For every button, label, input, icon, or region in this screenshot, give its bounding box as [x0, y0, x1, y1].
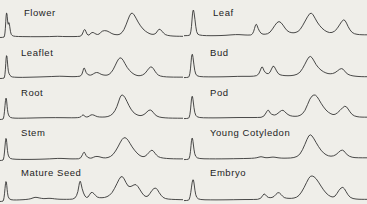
- trace-line: [0, 138, 183, 161]
- trace-line: [184, 176, 367, 201]
- trace-label: Embryo: [210, 168, 246, 178]
- trace-svg: [184, 0, 367, 40]
- trace-line: [184, 95, 367, 119]
- trace-line: [0, 55, 183, 78]
- trace-svg: [0, 0, 183, 40]
- trace-label: Young Cotyledon: [210, 128, 290, 138]
- trace-label: Root: [21, 88, 43, 98]
- trace-label: Pod: [210, 88, 229, 98]
- trace-label: Stem: [21, 128, 45, 138]
- trace-label: Leaf: [213, 8, 234, 18]
- trace-label: Mature Seed: [21, 168, 81, 178]
- trace-line: [0, 95, 183, 120]
- trace-panel: [184, 0, 367, 40]
- trace-line: [0, 176, 183, 201]
- trace-label: Leaflet: [21, 48, 53, 58]
- trace-line: [184, 10, 367, 36]
- trace-panel: [0, 0, 183, 40]
- chromatogram-figure: FlowerLeafletRootStemMature SeedLeafBudP…: [0, 0, 367, 204]
- trace-label: Flower: [24, 8, 56, 18]
- trace-label: Bud: [210, 48, 229, 58]
- trace-line: [184, 135, 367, 160]
